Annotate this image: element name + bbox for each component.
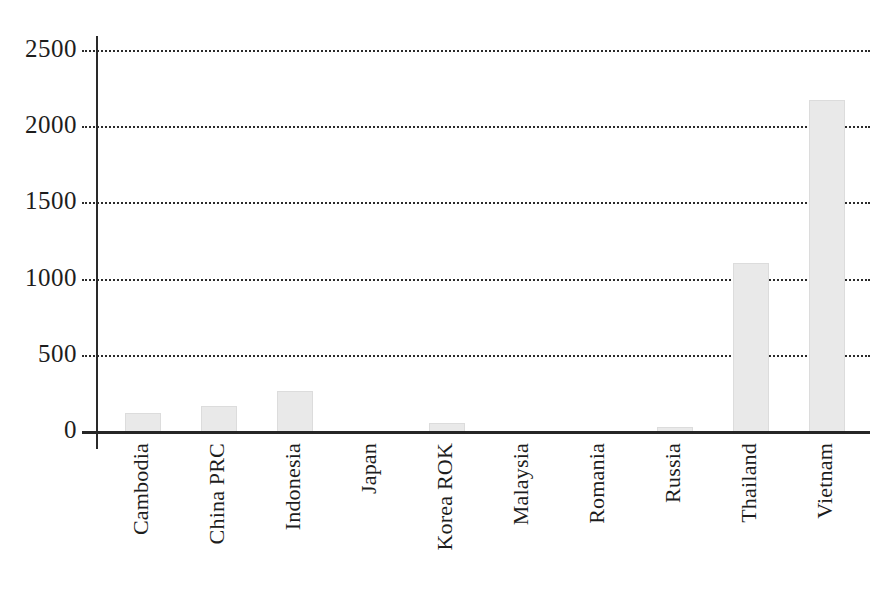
bar-thailand: [733, 263, 769, 431]
x-axis-labels: Cambodia China PRC Indonesia Japan Korea…: [0, 437, 887, 597]
xtick-korea-rok: Korea ROK: [408, 437, 482, 597]
bar-cambodia: [125, 413, 161, 431]
bar-chart-figure: 2500 2000 1500 1000 500 0 Cambodia: [0, 0, 887, 597]
xtick-label: Indonesia: [282, 443, 304, 530]
bar-indonesia: [277, 391, 313, 431]
xtick-japan: Japan: [332, 437, 406, 597]
xtick-label: Cambodia: [130, 443, 152, 535]
xtick-label: Thailand: [738, 443, 760, 523]
xtick-russia: Russia: [636, 437, 710, 597]
xtick-cambodia: Cambodia: [104, 437, 178, 597]
bars-layer: [0, 0, 887, 460]
xtick-label: Malaysia: [510, 443, 532, 525]
xtick-label: Vietnam: [814, 443, 836, 519]
bar-vietnam: [809, 100, 845, 431]
caption-fragment: [10, 583, 430, 593]
xtick-label: Russia: [662, 443, 684, 503]
xtick-label: China PRC: [206, 443, 228, 544]
xtick-label: Korea ROK: [434, 443, 456, 551]
xtick-label: Romania: [586, 443, 608, 524]
bar-china-prc: [201, 406, 237, 431]
xtick-indonesia: Indonesia: [256, 437, 330, 597]
plot-area: 2500 2000 1500 1000 500 0: [0, 0, 887, 460]
xtick-malaysia: Malaysia: [484, 437, 558, 597]
xtick-romania: Romania: [560, 437, 634, 597]
xtick-china-prc: China PRC: [180, 437, 254, 597]
xtick-thailand: Thailand: [712, 437, 786, 597]
bar-russia: [657, 427, 693, 431]
xtick-vietnam: Vietnam: [788, 437, 862, 597]
bar-korea-rok: [429, 423, 465, 431]
xtick-label: Japan: [358, 443, 380, 494]
